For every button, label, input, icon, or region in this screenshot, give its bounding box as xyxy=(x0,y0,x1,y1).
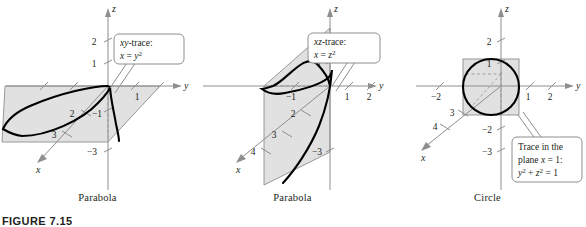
figure-number-label: FIGURE 7.15 xyxy=(2,216,72,226)
callout-leader-2 xyxy=(336,62,355,91)
panel-caption: Parabola xyxy=(0,192,195,203)
neg1-label: −1 xyxy=(92,109,102,119)
z-tick-label-1: 1 xyxy=(92,59,97,69)
z-axis-label: z xyxy=(111,3,116,14)
x-tick-label-2: 2 xyxy=(291,109,296,119)
callout-plane-word: plane xyxy=(518,155,541,165)
callout-line-1: Trace in the xyxy=(518,142,563,152)
z-tick-label-neg3: −3 xyxy=(312,147,322,157)
callout-trace-word: -trace: xyxy=(322,37,346,47)
z-axis-arrow xyxy=(105,8,111,17)
callout-eq-exp: 2 xyxy=(332,49,336,57)
z-tick-label-1: 1 xyxy=(487,59,492,69)
callout-line-2: plane x = 1: xyxy=(518,155,563,165)
y-tick-label-2: 2 xyxy=(367,92,372,102)
y-tick-label-2: 2 xyxy=(548,92,553,102)
y-axis-arrow xyxy=(173,83,182,89)
y-axis-label: y xyxy=(378,80,384,91)
x-tick-4 xyxy=(440,124,450,130)
callout-plane-val: = 1: xyxy=(545,155,563,165)
callout-trace-plane: xz xyxy=(313,37,322,47)
x-axis-label: x xyxy=(35,164,41,175)
callout-eq-exp: 2 xyxy=(139,50,143,58)
callout-eq-plus: + xyxy=(526,168,536,178)
z-axis-label: z xyxy=(504,3,509,14)
x-tick-label-4: 4 xyxy=(433,122,438,132)
z-tick-label-2: 2 xyxy=(487,37,492,47)
diagram-xz-trace: z y x 1 −3 1 2 −1 2 3 4 xyxy=(195,0,390,192)
z-tick-label-2: 2 xyxy=(92,37,97,47)
callout-trace-word: -trace: xyxy=(128,38,152,48)
x-tick-label-3: 3 xyxy=(450,108,455,118)
z-tick-label-neg2: −2 xyxy=(482,125,492,135)
diagram-xy-trace: z y x 2 1 −3 1 2 3 −1 xyxy=(0,0,195,192)
callout-leader-2 xyxy=(523,112,541,137)
y-tick-label-1: 1 xyxy=(526,92,531,102)
callout-line-1: xz-trace: xyxy=(313,37,346,47)
figure-panel-xz-trace: z y x 1 −3 1 2 −1 2 3 4 xyxy=(195,0,390,227)
y-axis-label: y xyxy=(183,80,189,91)
y-tick-label-1: 1 xyxy=(345,92,350,102)
y-axis-label: y xyxy=(575,80,581,91)
x-tick-label-3: 3 xyxy=(52,130,57,140)
diagram-circle-trace: z y x 2 1 −2 −3 −2 1 2 3 4 xyxy=(390,0,586,192)
z-axis-arrow xyxy=(327,8,333,17)
x-axis-label: x xyxy=(235,164,241,175)
y-tick-label-neg2: −2 xyxy=(431,92,441,102)
z-tick-label-neg3: −3 xyxy=(482,147,492,157)
panel-caption: Parabola xyxy=(195,192,390,203)
x-tick-label-4: 4 xyxy=(251,147,256,157)
figure-panel-circle-trace: z y x 2 1 −2 −3 −2 1 2 3 4 xyxy=(390,0,585,227)
panel-caption: Circle xyxy=(390,192,585,203)
x-tick-label-3: 3 xyxy=(272,130,277,140)
x-axis-arrow xyxy=(37,154,47,163)
x-axis-label: x xyxy=(420,152,426,163)
callout-eq-rhs: = 1 xyxy=(543,168,558,178)
figure-panel-xy-trace: z y x 2 1 −3 1 2 3 −1 xyxy=(0,0,195,227)
callout-leader xyxy=(518,115,536,140)
z-tick-label-neg3: −3 xyxy=(87,147,97,157)
y-axis-arrow xyxy=(565,83,574,89)
callout-eq-sign: = xyxy=(124,51,134,61)
y-tick-label-1: 1 xyxy=(135,92,140,102)
x-tick-label-2: 2 xyxy=(70,109,75,119)
z-axis-arrow xyxy=(498,8,504,17)
callout-line-1: xy-trace: xyxy=(119,38,153,48)
z-axis-label: z xyxy=(333,3,338,14)
callout-eq-sign: = xyxy=(318,50,328,60)
